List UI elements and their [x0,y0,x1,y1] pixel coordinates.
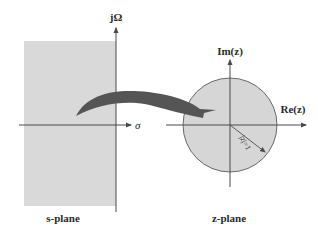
real-axis-label: Re(z) [280,103,305,116]
s-to-z-mapping-diagram: jΩ σ s-plane |z|=1 Im(z) Re(z) z-plane [0,0,318,238]
j-omega-axis-label: jΩ [109,11,123,23]
z-plane-caption: z-plane [212,212,246,224]
s-plane: jΩ σ s-plane [19,11,141,224]
s-plane-caption: s-plane [46,212,80,224]
sigma-axis-label: σ [135,119,141,131]
imaginary-axis-label: Im(z) [217,45,243,58]
z-plane: |z|=1 Im(z) Re(z) z-plane [166,45,306,224]
s-plane-left-half-region [24,41,116,206]
